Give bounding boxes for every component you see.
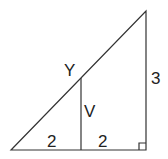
label-base-left: 2 (47, 132, 56, 151)
label-right-side: 3 (151, 69, 160, 88)
right-angle-marker (139, 143, 146, 150)
label-base-right: 2 (98, 132, 107, 151)
triangle-diagram: Y V 3 2 2 (0, 0, 168, 159)
label-hypotenuse: Y (64, 61, 75, 80)
outer-triangle (11, 11, 146, 150)
label-inner-segment: V (84, 102, 96, 121)
